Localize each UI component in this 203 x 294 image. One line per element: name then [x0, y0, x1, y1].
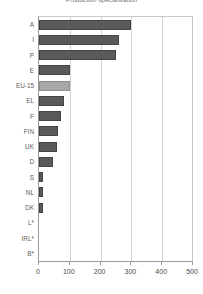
bar-row [39, 109, 193, 124]
x-axis-tick [161, 262, 162, 265]
bar [39, 187, 43, 197]
y-axis-tick-label: A [0, 17, 38, 32]
bar-row [39, 93, 193, 108]
bar-row [39, 215, 193, 230]
x-axis-tick [130, 262, 131, 265]
bar-row [39, 48, 193, 63]
bar-row [39, 63, 193, 78]
x-axis-labels: 0100200300400500 [0, 268, 203, 280]
x-axis-tick-label: 0 [36, 268, 40, 275]
bar-row [39, 170, 193, 185]
bar-row [39, 154, 193, 169]
x-axis-tick-label: 300 [125, 268, 137, 275]
y-axis-tick-label: D [0, 154, 38, 169]
chart-title: Production specialisation [0, 0, 203, 3]
bar [39, 96, 64, 106]
bar [39, 50, 116, 60]
bar [39, 35, 119, 45]
y-axis-tick-label: I [0, 32, 38, 47]
bar-row [39, 246, 193, 261]
y-axis-tick-label: E [0, 63, 38, 78]
y-axis-tick-label: S [0, 170, 38, 185]
x-axis-tick-label: 400 [155, 268, 167, 275]
bar-row [39, 200, 193, 215]
y-axis-labels: AIPEEU-15ELFFINUKDSNLDKL*IRL*B* [0, 17, 34, 261]
bar [39, 203, 43, 213]
y-axis-tick-label: IRL* [0, 231, 38, 246]
bar-row [39, 139, 193, 154]
x-axis-tick [38, 262, 39, 265]
y-axis-tick-label: EL [0, 93, 38, 108]
y-axis-tick-label: L* [0, 215, 38, 230]
bar [39, 126, 58, 136]
y-axis-tick-label: EU-15 [0, 78, 38, 93]
x-axis-tick-label: 200 [94, 268, 106, 275]
bar [39, 20, 131, 30]
bar [39, 157, 53, 167]
bar-row [39, 17, 193, 32]
bar [39, 81, 70, 91]
bar [39, 65, 70, 75]
bar-row [39, 185, 193, 200]
bar-chart: Production specialisation AIPEEU-15ELFFI… [0, 0, 203, 294]
y-axis-tick-label: DK [0, 200, 38, 215]
x-axis-tick [100, 262, 101, 265]
bar [39, 111, 61, 121]
bar-row [39, 124, 193, 139]
bar-row [39, 32, 193, 47]
x-axis-tick [192, 262, 193, 265]
y-axis-tick-label: B* [0, 246, 38, 261]
y-axis-tick-label: FIN [0, 124, 38, 139]
bar-row [39, 78, 193, 93]
y-axis-tick-label: NL [0, 185, 38, 200]
x-axis-ticks [0, 262, 203, 266]
bar-row [39, 231, 193, 246]
x-axis-tick-label: 100 [63, 268, 75, 275]
y-axis-tick-label: F [0, 109, 38, 124]
bars-layer [39, 17, 193, 261]
y-axis-tick-label: P [0, 48, 38, 63]
bar [39, 172, 43, 182]
y-axis-tick-label: UK [0, 139, 38, 154]
x-axis-tick-label: 500 [186, 268, 198, 275]
x-axis-tick [69, 262, 70, 265]
bar [39, 142, 57, 152]
